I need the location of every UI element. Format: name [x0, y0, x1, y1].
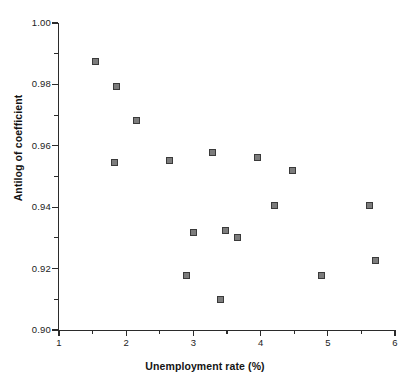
data-point-marker — [254, 154, 261, 161]
data-point-marker — [183, 272, 190, 279]
y-axis-tick-major — [52, 207, 58, 208]
y-axis-tick-label: 0.92 — [11, 263, 51, 274]
y-axis-tick-major — [52, 329, 58, 330]
data-point-marker — [217, 296, 224, 303]
y-axis-tick-major — [52, 268, 58, 269]
x-axis-tick-label: 5 — [316, 337, 340, 348]
data-point-marker — [113, 83, 120, 90]
data-point-marker — [190, 229, 197, 236]
x-axis-tick-major — [126, 330, 127, 336]
scatter-plot-figure: 1.000.980.960.940.920.90 123456 Antilog … — [0, 0, 410, 385]
x-axis-tick-major — [58, 330, 59, 336]
data-point-marker — [289, 167, 296, 174]
y-axis-tick-minor — [54, 176, 58, 177]
x-axis-tick-label: 2 — [114, 337, 138, 348]
x-axis-tick-label: 3 — [181, 337, 205, 348]
y-axis-tick-major — [52, 22, 58, 23]
data-point-marker — [222, 227, 229, 234]
y-axis-tick-label: 0.90 — [11, 324, 51, 335]
data-point-marker — [372, 257, 379, 264]
plot-area — [59, 23, 395, 330]
data-point-marker — [234, 234, 241, 241]
y-axis-title: Antilog of coefficient — [12, 58, 24, 238]
data-point-marker — [133, 117, 140, 124]
x-axis-tick-minor — [159, 330, 160, 334]
x-axis-tick-minor — [294, 330, 295, 334]
x-axis-tick-minor — [92, 330, 93, 334]
x-axis-tick-label: 4 — [249, 337, 273, 348]
y-axis-tick-major — [52, 145, 58, 146]
x-axis-tick-major — [327, 330, 328, 336]
data-point-marker — [111, 159, 118, 166]
x-axis-tick-major — [193, 330, 194, 336]
y-axis-tick-minor — [54, 115, 58, 116]
x-axis-tick-major — [394, 330, 395, 336]
x-axis-tick-major — [260, 330, 261, 336]
data-point-marker — [209, 149, 216, 156]
y-axis-tick-minor — [54, 237, 58, 238]
data-point-marker — [366, 202, 373, 209]
x-axis-tick-label: 6 — [383, 337, 407, 348]
y-axis-tick-minor — [54, 299, 58, 300]
data-point-marker — [271, 202, 278, 209]
x-axis-tick-minor — [361, 330, 362, 334]
y-axis-tick-major — [52, 84, 58, 85]
data-point-marker — [92, 58, 99, 65]
y-axis-tick-minor — [54, 53, 58, 54]
x-axis-title: Unemployment rate (%) — [0, 360, 410, 372]
data-point-marker — [318, 272, 325, 279]
x-axis-tick-minor — [226, 330, 227, 334]
data-point-marker — [166, 157, 173, 164]
y-axis-tick-label: 1.00 — [11, 17, 51, 28]
x-axis-tick-label: 1 — [47, 337, 71, 348]
